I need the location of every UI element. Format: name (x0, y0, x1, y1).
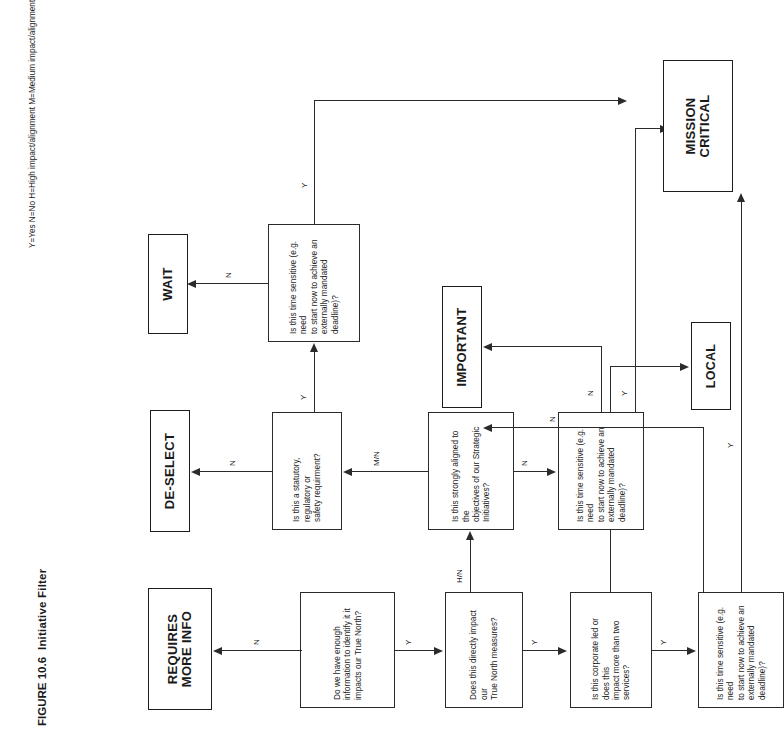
decision-statutory-regulatory-safety[interactable]: Is this a statutory, regulatory or safet… (272, 412, 342, 530)
decision-directly-impact-true-north[interactable]: Does this directly impact our True North… (445, 592, 523, 708)
edge-q2-q3-arrowhead (558, 648, 567, 656)
edge-q8-wait-line (196, 283, 268, 284)
terminal-de-select-text: DE-SELECT (163, 433, 178, 509)
decision-time-sensitive-middle-text: Is this time sensitive (e.g. need to sta… (575, 420, 627, 522)
decision-time-sensitive-bottom-text: Is this time sensitive (e.g. need to sta… (715, 600, 767, 700)
edge-q7-q8-line (314, 350, 315, 412)
decision-time-sensitive-bottom[interactable]: Is this time sensitive (e.g. need to sta… (698, 592, 784, 708)
decision-enough-information-text: Do we have enough information to identif… (332, 608, 363, 700)
edge-q4-important-line (703, 427, 704, 592)
edge-q6-mission-line (635, 128, 636, 412)
edge-q8-mission-arrowhead (618, 98, 627, 106)
decision-time-sensitive-top-text: Is this time sensitive (e.g. need to sta… (288, 232, 340, 334)
decision-corporate-led[interactable]: Is this corporate led or does this impac… (570, 592, 652, 708)
edge-q3-q4-line (652, 650, 690, 651)
terminal-requires-more-info-text: REQUIRES MORE INFO (166, 611, 195, 687)
terminal-de-select[interactable]: DE-SELECT (150, 410, 190, 532)
edge-q3-local-drop (610, 366, 682, 367)
edge-label-q4-important: N (548, 416, 557, 422)
edge-label-q6-important: N (586, 390, 595, 396)
terminal-wait[interactable]: WAIT (148, 234, 188, 334)
edge-label-q3-q4: Y (659, 640, 668, 645)
legend-key: Y=Yes N=No H=High impact/alignment M=Med… (28, 0, 39, 248)
edge-q8-wait-arrowhead (187, 281, 196, 289)
decision-strategic-alignment-text: Is this strongly aligned to the objectiv… (450, 420, 492, 522)
edge-q4-mission-arrowhead (737, 193, 745, 202)
edge-label-q4-mission: Y (726, 443, 735, 448)
terminal-local-text: LOCAL (704, 344, 719, 389)
edge-label-q8-wait: N (224, 272, 233, 278)
edge-label-q8-mission: Y (300, 183, 309, 188)
decision-statutory-regulatory-safety-text: Is this a statutory, regulatory or safet… (291, 420, 322, 522)
edge-q3-q4-arrowhead (687, 648, 696, 656)
edge-q8-mission-line (314, 100, 315, 224)
edge-q1-q2-line (395, 650, 437, 651)
decision-time-sensitive-middle[interactable]: Is this time sensitive (e.g. need to sta… (558, 412, 644, 530)
edge-q6-important-rise (492, 346, 602, 347)
decision-time-sensitive-top[interactable]: Is this time sensitive (e.g. need to sta… (268, 224, 360, 342)
edge-q1-q2-arrowhead (434, 648, 443, 656)
edge-q4-mission-line (741, 200, 742, 592)
edge-q1-requiresinfo-arrowhead (213, 648, 222, 656)
edge-q2-q3-line (523, 650, 561, 651)
edge-label-q5-q6: N (520, 460, 529, 466)
terminal-requires-more-info[interactable]: REQUIRES MORE INFO (148, 588, 212, 710)
figure-title: Initiative Filter (36, 569, 48, 650)
edge-q2-q5-line (470, 538, 471, 592)
decision-enough-information[interactable]: Do we have enough information to identif… (300, 592, 395, 708)
decision-strategic-alignment[interactable]: Is this strongly aligned to the objectiv… (428, 412, 514, 530)
decision-corporate-led-text: Is this corporate led or does this impac… (590, 600, 632, 700)
edge-q5-q7-arrowhead (343, 469, 352, 477)
edge-q3-local-arrowhead (680, 364, 689, 372)
decision-directly-impact-true-north-text: Does this directly impact our True North… (468, 600, 499, 700)
edge-q2-q5-arrowhead (466, 531, 474, 540)
edge-q5-q7-line (352, 471, 428, 472)
edge-q7-q8-arrowhead (310, 343, 318, 352)
edge-q6-important-arrowhead (483, 344, 492, 352)
figure-number: FIGURE 10.6 (36, 657, 48, 726)
edge-label-q2-q3: Y (530, 640, 539, 645)
edge-label-q7-q8: Y (299, 395, 308, 400)
edge-q4-important-arrowhead (483, 425, 492, 433)
terminal-local[interactable]: LOCAL (691, 322, 731, 410)
edge-q5-q6-arrowhead (547, 469, 556, 477)
edge-label-q5-q7: M/N (372, 451, 381, 466)
edge-q6-important-line (601, 346, 602, 412)
terminal-mission-critical[interactable]: MISSION CRITICAL (663, 60, 733, 192)
edge-q8-mission-drop (314, 100, 621, 101)
edge-q1-requiresinfo-line (222, 650, 302, 651)
terminal-important-text: IMPORTANT (455, 308, 470, 387)
edge-q6-mission-drop (635, 128, 663, 129)
edge-q4-important-rise (492, 427, 704, 428)
edge-q5-q6-line (514, 471, 550, 472)
edge-label-q2-q5: H/N (455, 569, 464, 583)
edge-label-q7-deselect: N (228, 460, 237, 466)
edge-q7-deselect-line (200, 471, 272, 472)
edge-label-q6-mission: Y (620, 391, 629, 396)
edge-label-q1-q2: Y (404, 640, 413, 645)
edge-q7-deselect-arrowhead (191, 469, 200, 477)
terminal-mission-critical-text: MISSION CRITICAL (684, 94, 713, 157)
edge-label-q1-requiresinfo: N (252, 639, 261, 645)
terminal-important[interactable]: IMPORTANT (442, 286, 482, 408)
terminal-wait-text: WAIT (161, 267, 176, 301)
